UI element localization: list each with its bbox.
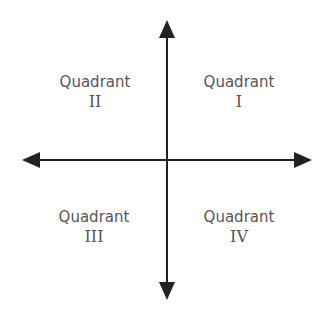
- quadrant-2-word: Quadrant: [40, 75, 150, 90]
- quadrant-2-label: Quadrant II: [40, 75, 150, 110]
- quadrant-4-label: Quadrant IV: [184, 210, 294, 245]
- quadrant-1-word: Quadrant: [184, 75, 294, 90]
- arrow-left-icon: [22, 152, 40, 168]
- arrow-right-icon: [294, 152, 312, 168]
- quadrant-1-numeral: I: [184, 94, 294, 110]
- quadrant-3-numeral: III: [39, 229, 149, 245]
- quadrant-3-label: Quadrant III: [39, 210, 149, 245]
- quadrant-3-word: Quadrant: [39, 210, 149, 225]
- arrow-up-icon: [159, 20, 175, 38]
- quadrant-diagram: Quadrant I Quadrant II Quadrant III Quad…: [0, 0, 334, 324]
- quadrant-4-word: Quadrant: [184, 210, 294, 225]
- quadrant-1-label: Quadrant I: [184, 75, 294, 110]
- arrow-down-icon: [159, 282, 175, 300]
- axes-graphic: [0, 0, 334, 324]
- quadrant-2-numeral: II: [40, 94, 150, 110]
- quadrant-4-numeral: IV: [184, 229, 294, 245]
